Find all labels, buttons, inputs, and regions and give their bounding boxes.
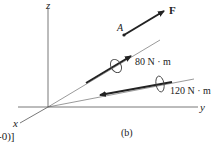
z-axis-label: z: [46, 0, 50, 11]
couple-label-80: 80 N · m: [135, 57, 171, 67]
line-of-action-80: [48, 40, 160, 107]
force-arrow: [124, 11, 164, 35]
couple-vector-80: [86, 56, 131, 83]
x-axis-label: x: [13, 118, 18, 129]
point-a-label: A: [117, 23, 123, 33]
couple-label-120: 120 N · m: [170, 86, 211, 96]
cropped-text-fragment: -0)]: [0, 131, 15, 142]
couple-vector-120: [100, 82, 172, 95]
y-axis-label: y: [200, 102, 205, 113]
x-axis: [20, 107, 48, 123]
force-label: F: [169, 5, 176, 16]
figure-caption: (b): [121, 128, 133, 138]
diagram-canvas: [0, 0, 221, 158]
